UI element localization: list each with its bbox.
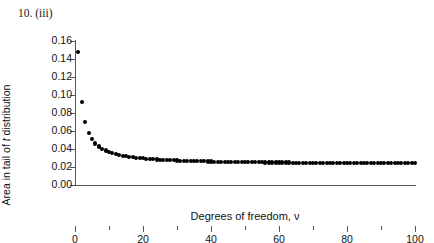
y-tick-label: 0.16 bbox=[52, 34, 72, 47]
y-axis-title-post: distribution bbox=[0, 85, 12, 139]
x-tick-minor-mark bbox=[381, 226, 382, 230]
y-tick-label: 0.06 bbox=[52, 124, 72, 137]
x-tick-mark bbox=[143, 226, 144, 232]
x-tick-label: 80 bbox=[341, 233, 353, 243]
plot-area: 0.000.020.040.060.080.100.120.140.16 020… bbox=[75, 41, 415, 185]
x-tick-minor-mark bbox=[245, 226, 246, 230]
x-tick-mark bbox=[279, 226, 280, 232]
figure-label: 10. (iii) bbox=[18, 7, 53, 20]
x-tick-minor-mark bbox=[313, 226, 314, 230]
y-tick-label: 0.12 bbox=[52, 70, 72, 83]
x-tick-mark bbox=[211, 226, 212, 232]
x-tick-minor-mark bbox=[177, 226, 178, 230]
x-tick-label: 60 bbox=[273, 233, 285, 243]
x-tick-mark bbox=[75, 226, 76, 232]
x-tick-mark bbox=[347, 226, 348, 232]
data-point bbox=[76, 50, 80, 54]
x-tick-minor-mark bbox=[109, 226, 110, 230]
data-point bbox=[413, 161, 417, 165]
y-axis-title-variable: t bbox=[0, 138, 12, 141]
y-axis-title-pre: Area in tail of bbox=[0, 141, 12, 205]
y-tick-label: 0.02 bbox=[52, 160, 72, 173]
x-axis-title: Degrees of freedom, ν bbox=[75, 210, 415, 222]
y-tick-label: 0.04 bbox=[52, 142, 72, 155]
y-tick-label: 0.14 bbox=[52, 52, 72, 65]
data-point bbox=[87, 131, 91, 135]
y-tick-label: 0.10 bbox=[52, 88, 72, 101]
x-tick-mark bbox=[415, 226, 416, 232]
x-tick-label: 40 bbox=[205, 233, 217, 243]
x-tick-label: 20 bbox=[137, 233, 149, 243]
x-tick-label: 100 bbox=[406, 233, 424, 243]
data-point bbox=[83, 120, 87, 124]
y-tick-label: 0.00 bbox=[52, 178, 72, 191]
x-tick-label: 0 bbox=[72, 233, 78, 243]
data-point bbox=[80, 100, 84, 104]
y-tick-label: 0.08 bbox=[52, 106, 72, 119]
y-axis-title: Area in tail of t distribution bbox=[0, 73, 16, 217]
figure-container: 10. (iii) Area in tail of t distribution… bbox=[0, 0, 434, 243]
